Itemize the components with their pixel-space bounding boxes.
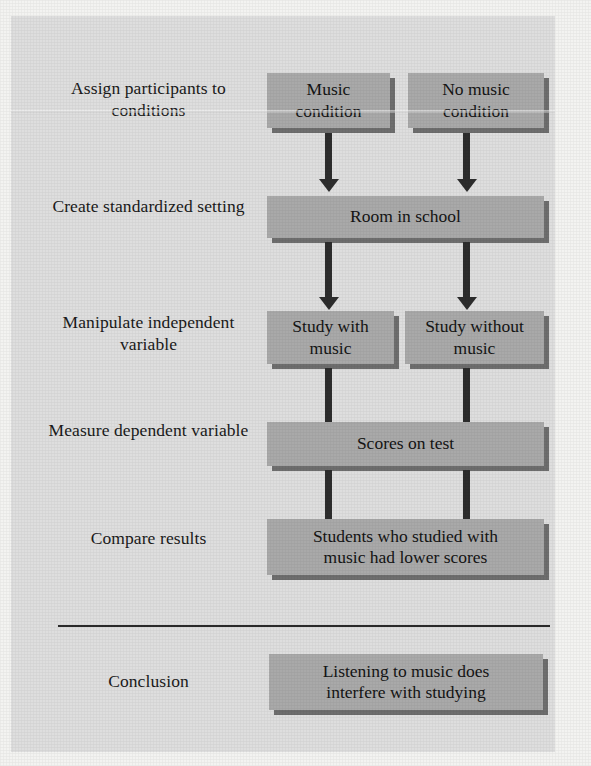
row-label-measure: Measure dependent variable	[41, 420, 256, 442]
box-text-line2: interfere with studying	[323, 682, 490, 703]
box-text-line2: condition	[442, 101, 510, 122]
box-text-line1: Study with	[292, 316, 368, 337]
box-room-in-school[interactable]: Room in school	[267, 196, 544, 238]
row-label-manipulate: Manipulate independent variable	[41, 312, 256, 356]
box-text-line1: Students who studied with	[313, 526, 498, 547]
row-label-line2: setting	[197, 196, 244, 216]
row-label-assign: Assign participants to conditions	[41, 78, 256, 122]
arrow-study-with-to-scores	[325, 368, 332, 424]
row-label-line1: Measure	[49, 420, 110, 440]
row-label-line2: dependent variable	[114, 420, 248, 440]
box-study-without-music[interactable]: Study without music	[405, 311, 544, 364]
row-label-setting: Create standardized setting	[41, 196, 256, 218]
box-text-line1: Room in school	[350, 206, 461, 227]
row-label-conclusion: Conclusion	[41, 671, 256, 693]
section-divider	[58, 625, 550, 627]
scan-background: Assign participants to conditions Music …	[0, 0, 591, 766]
box-text-line2: music	[425, 338, 524, 359]
box-text-line2: condition	[295, 101, 361, 122]
arrow-room-to-study-without	[463, 242, 470, 299]
figure-panel: Assign participants to conditions Music …	[11, 16, 555, 752]
row-label-compare: Compare results	[41, 528, 256, 550]
arrow-scores-to-compare-left	[325, 470, 332, 525]
arrow-scores-to-compare-right	[463, 470, 470, 525]
arrow-nomusic-to-room	[463, 133, 470, 181]
row-label-line1: Conclusion	[108, 671, 189, 691]
box-text-line2: music	[292, 338, 368, 359]
box-music-condition[interactable]: Music condition	[267, 73, 390, 128]
box-compare-results[interactable]: Students who studied with music had lowe…	[267, 519, 544, 575]
box-text-line1: Study without	[425, 316, 524, 337]
box-text-line1: Music	[295, 79, 361, 100]
box-text-line2: music had lower scores	[313, 547, 498, 568]
arrow-room-to-study-with	[325, 242, 332, 299]
row-label-line1: Create standardized	[52, 196, 192, 216]
box-text-line1: No music	[442, 79, 510, 100]
box-text-line1: Listening to music does	[323, 661, 490, 682]
row-label-line1: Assign participants	[71, 78, 208, 98]
arrow-study-without-to-scores	[463, 368, 470, 424]
box-no-music-condition[interactable]: No music condition	[408, 73, 544, 128]
row-label-line1: Compare results	[91, 528, 207, 548]
box-study-with-music[interactable]: Study with music	[267, 311, 394, 364]
box-text-line1: Scores on test	[357, 433, 454, 454]
box-conclusion[interactable]: Listening to music does interfere with s…	[269, 654, 543, 710]
arrow-music-to-room	[325, 133, 332, 181]
box-scores-on-test[interactable]: Scores on test	[267, 422, 544, 466]
row-label-line1: Manipulate	[63, 312, 144, 332]
